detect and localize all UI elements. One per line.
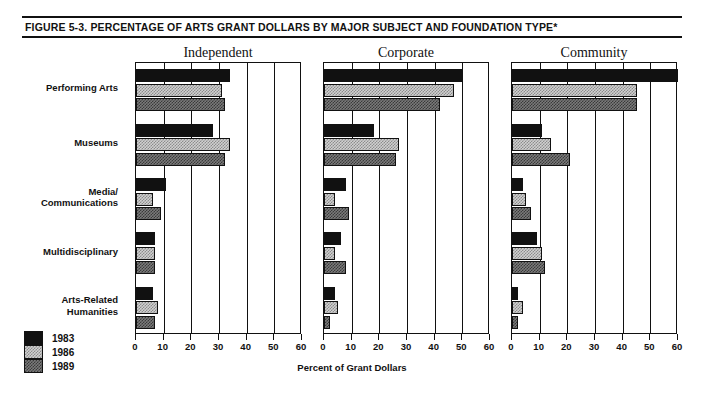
gridline-50 [650,63,651,333]
bar-corporate-performing-arts-1983 [324,69,462,82]
tick-40 [434,334,435,340]
bar-independent-multidisciplinary-1989 [136,261,155,274]
tick-20 [190,334,191,340]
bar-independent-media-communications-1989 [136,207,161,220]
bar-corporate-arts-related-humanities-1983 [324,287,335,300]
plot-area-community [511,62,677,334]
bar-independent-performing-arts-1986 [136,84,222,97]
tick-label-30: 30 [213,341,224,352]
panel-title-independent: Independent [135,44,301,62]
bar-independent-arts-related-humanities-1989 [136,316,155,329]
tick-0 [135,334,136,340]
bar-corporate-museums-1983 [324,124,374,137]
bar-independent-museums-1983 [136,124,213,137]
tick-label-60: 60 [296,341,307,352]
tick-label-40: 40 [616,341,627,352]
gridline-50 [274,63,275,333]
panel-corporate: Corporate0102030405060 [323,44,489,355]
bar-community-multidisciplinary-1983 [512,232,537,245]
tick-label-50: 50 [644,341,655,352]
panel-title-corporate: Corporate [323,44,489,62]
x-axis-ticks-corporate [323,334,489,341]
bar-corporate-performing-arts-1989 [324,98,440,111]
bar-community-media-communications-1983 [512,178,523,191]
tick-20 [378,334,379,340]
tick-10 [351,334,352,340]
category-label-performing-arts: Performing Arts [0,82,118,94]
bar-corporate-media-communications-1983 [324,178,346,191]
bar-community-multidisciplinary-1986 [512,247,542,260]
tick-50 [649,334,650,340]
tick-label-0: 0 [320,341,325,352]
bar-community-multidisciplinary-1989 [512,261,545,274]
bar-community-performing-arts-1983 [512,69,678,82]
x-axis-ticks-community [511,334,677,341]
tick-50 [461,334,462,340]
plot-area-corporate [323,62,489,334]
page-title: FIGURE 5-3. PERCENTAGE OF ARTS GRANT DOL… [22,18,682,36]
bar-corporate-museums-1986 [324,138,399,151]
bar-community-performing-arts-1986 [512,84,637,97]
tick-label-10: 10 [345,341,356,352]
category-label-museums: Museums [0,137,118,149]
bar-independent-performing-arts-1983 [136,69,230,82]
panel-independent: Independent0102030405060 [135,44,301,355]
bar-independent-arts-related-humanities-1983 [136,287,153,300]
tick-label-0: 0 [132,341,137,352]
panel-title-community: Community [511,44,677,62]
x-axis-tick-labels-independent: 0102030405060 [135,341,301,355]
bar-independent-media-communications-1983 [136,178,166,191]
figure-title-block: FIGURE 5-3. PERCENTAGE OF ARTS GRANT DOL… [22,16,682,38]
bar-community-museums-1989 [512,153,570,166]
title-rule-bottom [22,36,682,38]
legend-swatch-1986 [24,345,43,359]
bar-community-performing-arts-1989 [512,98,637,111]
tick-10 [163,334,164,340]
tick-label-30: 30 [589,341,600,352]
legend-item-1986: 1986 [24,345,74,359]
figure-container: FIGURE 5-3. PERCENTAGE OF ARTS GRANT DOL… [0,0,704,400]
tick-label-10: 10 [157,341,168,352]
bar-corporate-arts-related-humanities-1989 [324,316,330,329]
bar-corporate-multidisciplinary-1986 [324,247,335,260]
tick-60 [301,334,302,340]
bar-community-museums-1986 [512,138,551,151]
tick-label-20: 20 [185,341,196,352]
tick-50 [273,334,274,340]
bar-corporate-media-communications-1986 [324,193,335,206]
bar-independent-multidisciplinary-1986 [136,247,155,260]
tick-label-40: 40 [428,341,439,352]
x-axis-tick-labels-community: 0102030405060 [511,341,677,355]
tick-label-20: 20 [373,341,384,352]
bar-corporate-media-communications-1989 [324,207,349,220]
legend-label-1983: 1983 [52,333,74,344]
bar-independent-multidisciplinary-1983 [136,232,155,245]
tick-30 [218,334,219,340]
tick-30 [406,334,407,340]
bar-independent-media-communications-1986 [136,193,153,206]
tick-label-40: 40 [240,341,251,352]
category-label-media-communications: Media/ Communications [0,186,118,209]
bar-independent-museums-1989 [136,153,225,166]
tick-40 [622,334,623,340]
tick-label-30: 30 [401,341,412,352]
bar-independent-performing-arts-1989 [136,98,225,111]
tick-0 [323,334,324,340]
bar-corporate-museums-1989 [324,153,396,166]
category-label-multidisciplinary: Multidisciplinary [0,246,118,258]
bar-corporate-arts-related-humanities-1986 [324,301,338,314]
panel-community: Community0102030405060 [511,44,677,355]
gridline-50 [462,63,463,333]
tick-label-60: 60 [484,341,495,352]
tick-label-10: 10 [533,341,544,352]
legend-swatch-1983 [24,331,43,345]
x-axis-ticks-independent [135,334,301,341]
tick-label-50: 50 [456,341,467,352]
category-label-arts-related-humanities: Arts-Related Humanities [0,294,118,317]
legend-label-1986: 1986 [52,347,74,358]
bar-community-arts-related-humanities-1983 [512,287,518,300]
x-axis-tick-labels-corporate: 0102030405060 [323,341,489,355]
tick-60 [489,334,490,340]
plot-area-independent [135,62,301,334]
legend-item-1983: 1983 [24,331,74,345]
